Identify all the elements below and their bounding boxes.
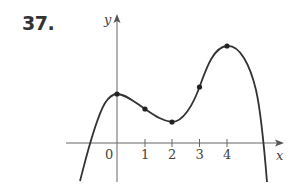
x-tick-label-1: 1 [141,147,149,162]
x-tick-label-3: 3 [196,147,204,162]
x-axis [66,140,284,147]
point-x0 [114,91,119,96]
function-graph: y x 0 1 2 3 4 [0,0,304,186]
x-axis-label: x [276,148,284,163]
x-tick-label-2: 2 [168,147,176,162]
point-x1 [142,106,147,111]
point-x4 [224,43,229,48]
point-x3 [197,84,202,89]
x-tick-label-4: 4 [223,147,231,162]
origin-label: 0 [105,147,113,162]
y-axis-label: y [103,12,112,27]
y-axis [114,14,121,182]
point-x2 [169,119,174,124]
